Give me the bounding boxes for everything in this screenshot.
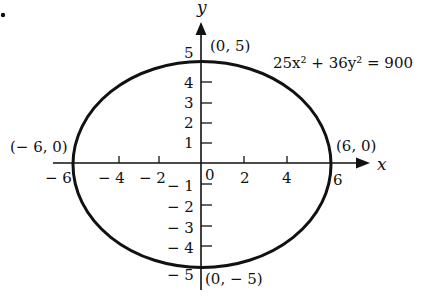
x-tick-label: 0 [205,166,215,184]
x-tick-label: − 4 [98,169,125,187]
x-tick-label: 4 [282,169,292,187]
x-axis-arrow-icon [356,158,370,169]
x-ticks [119,156,287,163]
ellipse-figure: x y − 6 − 4 − 2 0 2 4 6 5 4 3 [0,0,431,297]
y-tick-label: 5 [184,44,194,62]
ellipse-curve [73,62,331,268]
x-tick-label: − 6 [45,169,72,187]
y-tick-label: − 4 [167,239,194,257]
point-label-top: (0, 5) [210,37,250,55]
y-tick-labels: 5 4 3 2 1 − 1 − 2 − 3 − 4 − 5 [167,44,194,284]
y-tick-label: 1 [184,134,194,152]
y-tick-label: − 5 [167,266,194,284]
x-axis-label: x [377,154,387,174]
y-tick-label: 3 [184,94,194,112]
point-label-left: (− 6, 0) [10,138,68,156]
bullet-dot [1,13,5,17]
y-axis-label: y [196,0,207,17]
point-label-right: (6, 0) [336,137,376,155]
y-axis-arrow-icon [196,22,207,35]
y-tick-label: 4 [184,74,194,92]
x-tick-label: 2 [240,169,250,187]
y-tick-label: − 1 [167,177,194,195]
x-tick-label: 6 [333,171,343,189]
x-tick-label: − 2 [139,169,166,187]
y-tick-label: − 3 [167,219,194,237]
y-tick-label: 2 [184,114,194,132]
y-tick-label: − 2 [167,198,194,216]
y-ticks [201,82,212,246]
equation-label: 25x² + 36y² = 900 [273,54,413,72]
point-label-bottom: (0, − 5) [205,270,263,288]
